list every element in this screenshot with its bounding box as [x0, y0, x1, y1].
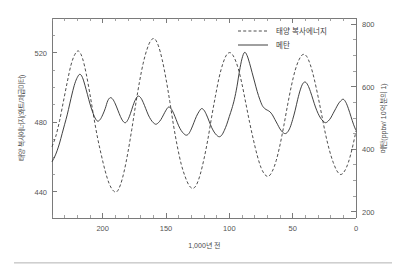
x-tick-label: 150 [160, 224, 173, 233]
x-tick-label: 100 [223, 224, 236, 233]
x-tick-label: 50 [288, 224, 296, 233]
y2-tick-label: 200 [362, 208, 375, 217]
x-axis-title: 1,000년 전 [188, 241, 219, 249]
y-axis-left-title: 태양 복사에너지(와트/제곱미터) [17, 75, 26, 162]
x-tick-label: 200 [96, 224, 109, 233]
y2-tick-label: 800 [362, 20, 375, 29]
y-tick-label: 520 [34, 49, 47, 58]
y2-tick-label: 600 [362, 83, 375, 92]
y-tick-label: 480 [34, 118, 47, 127]
footer-divider [14, 262, 392, 264]
legend-label-methane: 메탄 [276, 40, 290, 50]
y2-tick-label: 400 [362, 145, 375, 154]
insolation-methane-chart: 200150100500 440480520 200400600800 1,00… [0, 0, 406, 275]
x-tick-label: 0 [354, 224, 358, 233]
legend-label-insolation: 태양 복사에너지 [276, 26, 327, 36]
y-axis-right-title: 메탄(ppbv/ 10억 분의 1) [379, 83, 388, 152]
y-tick-label: 440 [34, 188, 47, 197]
